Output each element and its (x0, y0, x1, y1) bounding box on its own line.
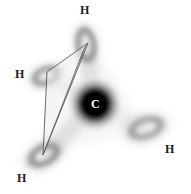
hydrogen-label-left: H (15, 68, 24, 80)
hydrogen-label-bottom-right: H (165, 143, 174, 155)
carbon-label: C (91, 98, 100, 110)
molecule-figure: H H H H C (0, 0, 191, 194)
hydrogen-label-top: H (80, 4, 89, 16)
hydrogen-label-bottom-left: H (17, 172, 26, 184)
